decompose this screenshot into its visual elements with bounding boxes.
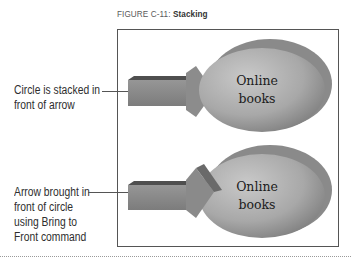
callout-line: Circle is stacked in xyxy=(14,83,100,98)
shape-text-line-2: books xyxy=(238,91,275,106)
shape-text-line-2: books xyxy=(238,197,275,212)
callout-circle-front: Circle is stacked in front of arrow xyxy=(14,83,100,113)
leader-line xyxy=(88,192,128,193)
example-arrow-front xyxy=(128,145,332,238)
shape-text-line-1: Online xyxy=(236,73,278,88)
callout-line: front of arrow xyxy=(14,98,100,113)
callout-line: front of circle xyxy=(14,200,90,215)
leader-line xyxy=(102,91,128,92)
callout-line: using Bring to xyxy=(14,215,90,230)
shape-text-line-1: Online xyxy=(236,179,278,194)
callout-line: Arrow brought in xyxy=(14,185,90,200)
callout-line: Front command xyxy=(14,230,90,245)
example-circle-front xyxy=(128,39,332,132)
divider xyxy=(0,256,351,257)
callout-arrow-front: Arrow brought in front of circle using B… xyxy=(14,185,90,245)
